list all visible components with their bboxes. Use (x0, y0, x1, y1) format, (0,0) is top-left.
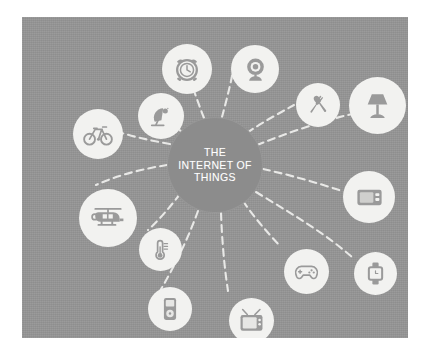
connector-helicopter (96, 165, 167, 185)
thermometer-icon (148, 237, 173, 262)
smartwatch-icon (363, 261, 388, 286)
node-lamp[interactable] (349, 77, 406, 134)
node-thermometer[interactable] (139, 228, 182, 271)
node-game-controller[interactable] (284, 249, 329, 294)
center-hub-label: THE INTERNET OF THINGS (178, 146, 252, 184)
webcam-icon (241, 55, 270, 84)
node-media-player[interactable] (343, 171, 395, 223)
node-smartwatch[interactable] (354, 252, 397, 295)
connector-media-player (263, 169, 342, 191)
satellite-dish-icon (148, 103, 175, 130)
connector-kitchen (247, 105, 294, 133)
helicopter-icon (91, 201, 125, 235)
node-bicycle[interactable] (73, 109, 123, 159)
connector-television (221, 213, 228, 291)
game-controller-icon (293, 258, 320, 285)
node-music-player[interactable] (148, 287, 192, 331)
center-hub: THE INTERNET OF THINGS (167, 117, 263, 213)
node-alarm-clock[interactable] (162, 44, 212, 94)
node-webcam[interactable] (231, 45, 279, 93)
connector-game-controller (243, 201, 280, 246)
television-icon (238, 307, 265, 334)
table-lamp-icon (361, 89, 394, 122)
connector-thermometer (148, 194, 180, 230)
iot-infographic: THE INTERNET OF THINGS (0, 0, 422, 355)
alarm-clock-icon (172, 54, 202, 84)
fork-spoon-icon (305, 92, 331, 118)
music-player-icon (157, 296, 183, 322)
node-satellite-dish[interactable] (138, 93, 184, 139)
connector-webcam (222, 71, 233, 117)
node-kitchen[interactable] (296, 83, 340, 127)
node-television[interactable] (229, 298, 274, 338)
media-player-icon (354, 182, 385, 213)
diagram-panel: THE INTERNET OF THINGS (22, 17, 408, 338)
connector-smartwatch (256, 192, 352, 257)
node-helicopter[interactable] (79, 189, 137, 247)
bicycle-icon (83, 119, 113, 149)
